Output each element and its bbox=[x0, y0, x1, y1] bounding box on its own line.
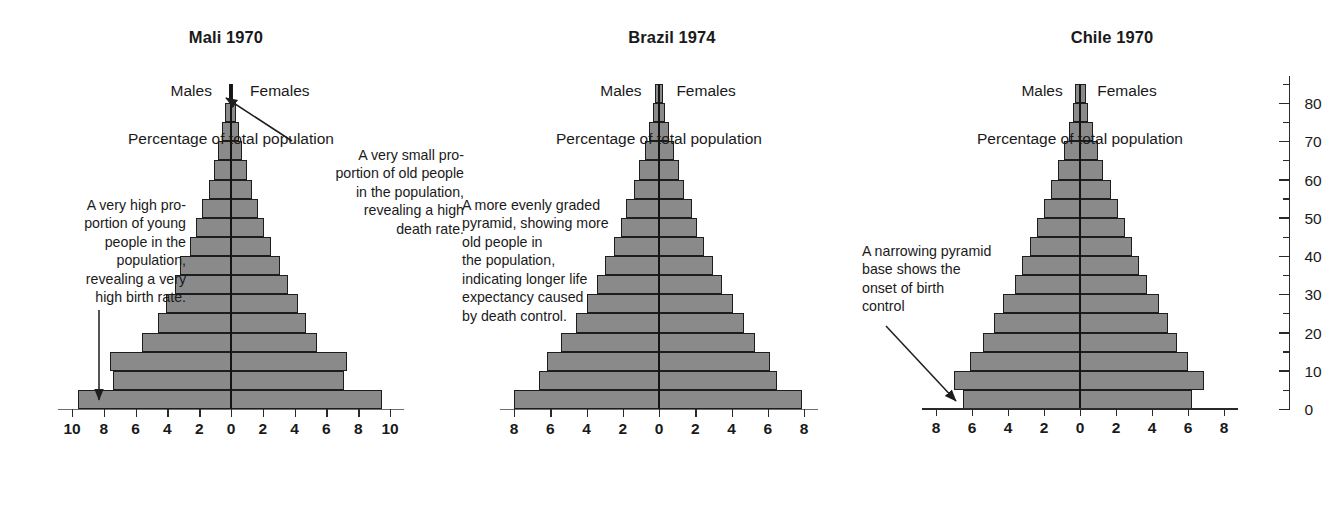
age-tick-major bbox=[1279, 103, 1290, 104]
bar-female bbox=[1080, 103, 1088, 122]
bar-female bbox=[1080, 218, 1125, 237]
bar-male bbox=[113, 371, 231, 390]
age-tick-minor bbox=[1283, 84, 1290, 85]
bar-female bbox=[231, 180, 252, 199]
annotation-young-population: A very high pro- portion of young people… bbox=[18, 196, 186, 307]
x-tick-label: 8 bbox=[932, 419, 941, 437]
x-tick-label: 2 bbox=[1112, 419, 1121, 437]
age-tick-minor bbox=[1283, 237, 1290, 238]
bar-female bbox=[231, 218, 264, 237]
age-tick-major bbox=[1279, 256, 1290, 257]
x-tick bbox=[1224, 408, 1225, 416]
x-tick bbox=[768, 409, 769, 417]
x-tick bbox=[550, 409, 551, 417]
x-tick-label: 0 bbox=[1076, 419, 1085, 437]
x-tick-label: 4 bbox=[163, 420, 172, 438]
x-tick bbox=[695, 409, 696, 417]
x-tick-label: 4 bbox=[727, 420, 736, 438]
x-tick-label: 0 bbox=[227, 420, 236, 438]
x-tick bbox=[1152, 408, 1153, 416]
x-tick bbox=[104, 409, 105, 417]
x-tick bbox=[326, 409, 327, 417]
bar-female bbox=[231, 199, 258, 218]
bar-male bbox=[983, 333, 1080, 352]
x-tick bbox=[231, 409, 232, 417]
bar-female bbox=[659, 199, 692, 218]
bar-female bbox=[1080, 256, 1139, 275]
age-tick-label: 20 bbox=[1305, 325, 1322, 343]
bar-male bbox=[1058, 160, 1080, 179]
bar-male bbox=[970, 352, 1080, 371]
x-tick-label: 2 bbox=[618, 420, 627, 438]
age-tick-label: 10 bbox=[1305, 363, 1322, 381]
x-tick-label: 8 bbox=[510, 420, 519, 438]
x-tick-label: 2 bbox=[258, 420, 267, 438]
x-tick-label: 6 bbox=[131, 420, 140, 438]
x-tick bbox=[263, 409, 264, 417]
bar-female bbox=[659, 256, 713, 275]
x-axis-brazil: 864202468 bbox=[500, 409, 818, 410]
x-tick-label: 6 bbox=[1184, 419, 1193, 437]
age-tick-major bbox=[1279, 217, 1290, 218]
bar-female bbox=[231, 275, 288, 294]
bar-male bbox=[180, 256, 231, 275]
age-tick-major bbox=[1279, 370, 1290, 371]
age-tick-label: 50 bbox=[1305, 210, 1322, 228]
x-tick bbox=[514, 409, 515, 417]
bar-female bbox=[659, 313, 744, 332]
age-tick-minor bbox=[1283, 351, 1290, 352]
x-tick bbox=[587, 409, 588, 417]
x-tick-label: 8 bbox=[1220, 419, 1229, 437]
x-tick bbox=[390, 409, 391, 417]
x-tick bbox=[199, 409, 200, 417]
age-axis-chile: 01020304050607080 bbox=[1289, 76, 1291, 410]
age-tick-major bbox=[1279, 332, 1290, 333]
bar-male bbox=[196, 218, 231, 237]
x-tick bbox=[1116, 408, 1117, 416]
bar-male bbox=[561, 333, 659, 352]
bar-female bbox=[231, 237, 271, 256]
bar-female bbox=[231, 313, 306, 332]
bar-male bbox=[78, 390, 231, 409]
bar-female bbox=[659, 103, 665, 122]
age-tick-label: 0 bbox=[1305, 401, 1314, 419]
panel-title-mali: Mali 1970 bbox=[0, 28, 452, 47]
bar-female bbox=[1080, 160, 1103, 179]
annotation-narrowing-base: A narrowing pyramid base shows the onset… bbox=[862, 242, 1038, 316]
bar-female bbox=[1080, 237, 1132, 256]
x-tick-label: 4 bbox=[290, 420, 299, 438]
bar-male bbox=[539, 371, 659, 390]
x-tick bbox=[136, 409, 137, 417]
age-tick-major bbox=[1279, 409, 1290, 410]
bar-male bbox=[214, 160, 231, 179]
age-tick-minor bbox=[1283, 122, 1290, 123]
x-tick bbox=[72, 409, 73, 417]
bar-male bbox=[209, 180, 231, 199]
panel-title-chile: Chile 1970 bbox=[892, 28, 1332, 47]
bar-female bbox=[659, 218, 697, 237]
bar-male bbox=[158, 313, 231, 332]
bar-female bbox=[231, 352, 347, 371]
bar-female bbox=[1080, 275, 1147, 294]
x-tick bbox=[732, 409, 733, 417]
x-tick bbox=[1080, 408, 1081, 416]
bar-female bbox=[1080, 371, 1204, 390]
x-tick bbox=[623, 409, 624, 417]
bar-male bbox=[1044, 199, 1080, 218]
x-tick bbox=[358, 409, 359, 417]
x-axis-chile: 864202468 bbox=[922, 408, 1238, 410]
bar-female bbox=[659, 333, 755, 352]
age-tick-major bbox=[1279, 294, 1290, 295]
bar-male bbox=[639, 160, 659, 179]
bar-female bbox=[1080, 180, 1111, 199]
x-axis-title-chile: Percentage of total population bbox=[936, 130, 1224, 148]
x-tick bbox=[659, 409, 660, 417]
bar-female bbox=[1080, 333, 1177, 352]
population-pyramid-figure: Mali 1970 Males Females 1086420246810 Pe… bbox=[0, 0, 1332, 515]
x-tick-label: 6 bbox=[763, 420, 772, 438]
x-tick bbox=[295, 409, 296, 417]
bar-female bbox=[231, 294, 298, 313]
panel-mali: Mali 1970 Males Females 1086420246810 Pe… bbox=[0, 0, 452, 515]
bar-female bbox=[1080, 352, 1188, 371]
age-tick-label: 40 bbox=[1305, 248, 1322, 266]
